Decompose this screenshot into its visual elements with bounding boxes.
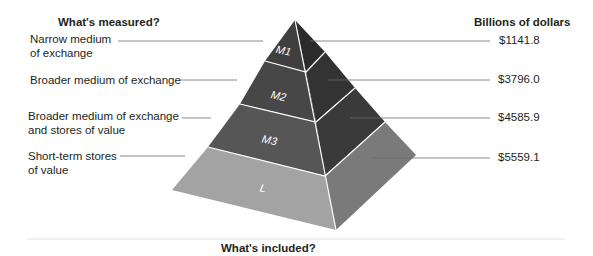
header-whats-included: What's included? — [221, 242, 316, 254]
value-m1: $1141.8 — [499, 34, 540, 46]
value-l: $5559.1 — [498, 151, 540, 163]
value-m2: $3796.0 — [498, 73, 540, 85]
value-m3: $4585.9 — [498, 111, 540, 123]
